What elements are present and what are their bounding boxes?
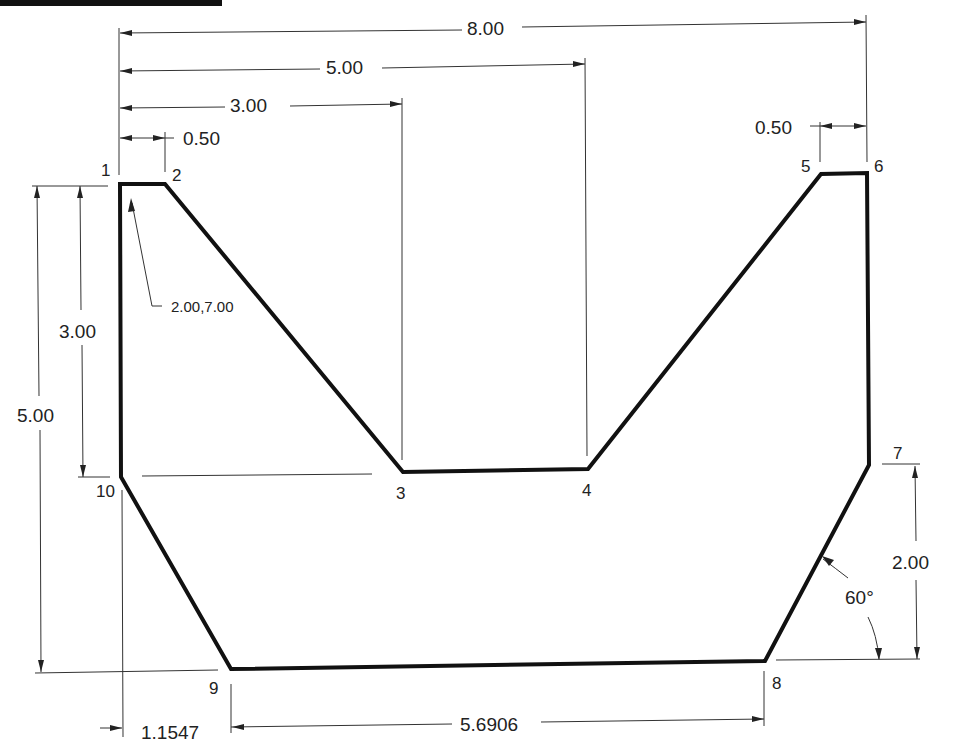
dim-line-3 [120, 107, 225, 108]
point-label-2: 2 [172, 166, 181, 185]
arrow-icon [820, 123, 832, 129]
ext-line-p8-horiz [776, 659, 920, 660]
header-bar [0, 0, 222, 6]
point-label-3: 3 [396, 484, 405, 503]
ext-line-p3-horiz [142, 474, 372, 476]
arrow-icon [120, 105, 132, 111]
arrow-icon [77, 186, 83, 198]
arrow-icon [854, 123, 866, 129]
dim-line-3-vertb [82, 345, 83, 477]
dim-line-56906b [541, 719, 764, 722]
ext-line-p4 [585, 58, 587, 456]
cad-drawing: 8.00 5.00 3.00 0.50 0.50 5.00 3.00 2.00,… [0, 0, 953, 753]
dim-bottom-length: 5.6906 [460, 714, 518, 735]
arrow-icon [128, 198, 135, 212]
arrow-icon [120, 135, 132, 141]
point-label-10: 10 [96, 482, 115, 501]
arrow-icon [912, 466, 918, 478]
dim-line-8 [120, 30, 462, 33]
dim-right-chamfer: 0.50 [755, 117, 792, 138]
dim-line-3b [290, 104, 402, 106]
arrow-icon [854, 19, 866, 25]
dim-left-chamfer: 0.50 [183, 128, 220, 149]
arrow-icon [914, 647, 920, 659]
point-label-6: 6 [874, 157, 883, 176]
arrow-icon [120, 68, 132, 74]
dim-left-overall: 5.00 [17, 405, 54, 426]
point-label-1: 1 [101, 161, 110, 180]
ext-line-right [866, 15, 867, 162]
arrow-icon [875, 648, 882, 660]
dim-line-3-vert [80, 186, 81, 310]
part-outline [120, 173, 869, 669]
arrow-icon [120, 30, 132, 36]
point-label-8: 8 [772, 674, 781, 693]
arrow-icon [752, 716, 764, 722]
arrow-icon [153, 135, 165, 141]
arrow-icon [232, 724, 244, 730]
dim-right-height: 2.00 [892, 552, 929, 573]
arrow-icon [822, 556, 834, 566]
dim-line-5-vertb [40, 430, 41, 672]
dim-left-inner: 3.00 [59, 321, 96, 342]
arrow-icon [38, 660, 44, 672]
arrow-icon [80, 465, 86, 477]
arrow-icon [34, 186, 40, 198]
leader-line [132, 203, 162, 306]
point-label-9: 9 [209, 679, 218, 698]
dim-top-overall: 8.00 [467, 18, 504, 39]
point-label-5: 5 [801, 157, 810, 176]
ext-line-p10-vert [122, 490, 123, 737]
dim-bottom-offset: 1.1547 [141, 722, 199, 743]
point-label-4: 4 [582, 481, 591, 500]
dim-line-5-vert [37, 186, 39, 396]
dim-line-5b [382, 64, 585, 68]
dim-line-8b [522, 22, 866, 27]
ext-line-bottom-horiz [35, 670, 218, 673]
arrow-icon [110, 725, 122, 731]
dim-line-5 [120, 69, 320, 71]
start-coordinate-note: 2.00,7.00 [171, 298, 234, 315]
dim-angle: 60° [845, 587, 874, 608]
dim-top-to-p3: 3.00 [230, 95, 267, 116]
point-label-7: 7 [893, 444, 902, 463]
arrow-icon [573, 61, 585, 67]
dim-line-56906 [231, 724, 452, 727]
arrow-icon [390, 101, 402, 107]
dim-top-to-p4: 5.00 [326, 57, 363, 78]
